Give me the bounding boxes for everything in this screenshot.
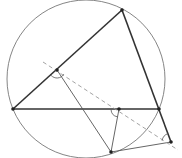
point-f xyxy=(169,140,173,144)
geometry-diagram xyxy=(0,0,182,158)
point-e xyxy=(117,107,121,111)
point-p xyxy=(109,150,113,154)
point-a xyxy=(120,8,124,12)
point-b xyxy=(11,107,15,111)
point-c xyxy=(157,107,161,111)
point-d xyxy=(55,68,59,72)
